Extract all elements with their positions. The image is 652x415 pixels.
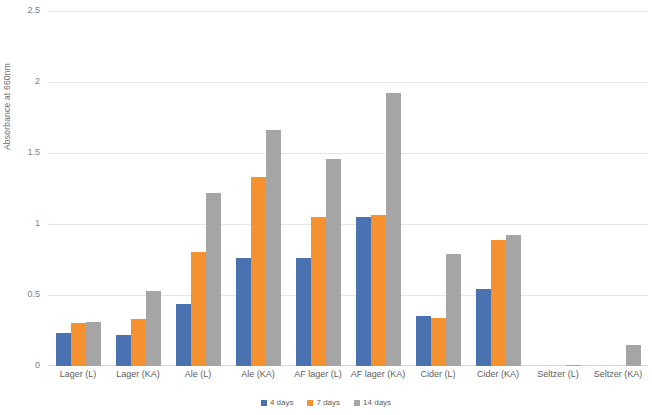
bar-group	[468, 11, 528, 366]
x-axis-label: Lager (KA)	[108, 369, 168, 379]
bar-0[interactable]	[116, 335, 131, 366]
y-tick-label: 1	[35, 218, 40, 228]
legend-swatch-icon	[307, 400, 313, 406]
bar-2[interactable]	[146, 291, 161, 366]
legend-item[interactable]: 14 days	[354, 398, 391, 407]
bar-group	[528, 11, 588, 366]
legend-label: 4 days	[270, 398, 294, 407]
chart-legend: 4 days7 days14 days	[0, 398, 652, 407]
y-tick-label: 0	[35, 360, 40, 370]
bar-group	[288, 11, 348, 366]
bar-group	[48, 11, 108, 366]
y-tick-label: 1.5	[27, 147, 40, 157]
bar-0[interactable]	[416, 316, 431, 366]
legend-label: 14 days	[363, 398, 391, 407]
bar-2[interactable]	[206, 193, 221, 366]
bar-groups	[48, 11, 648, 366]
bar-group	[168, 11, 228, 366]
legend-swatch-icon	[354, 400, 360, 406]
x-axis-labels: Lager (L)Lager (KA)Ale (L)Ale (KA)AF lag…	[48, 369, 648, 379]
bar-2[interactable]	[326, 159, 341, 366]
bar-1[interactable]	[371, 215, 386, 366]
bar-1[interactable]	[191, 252, 206, 366]
bar-chart: Absorbance at 660nm 2.521.510.50 Lager (…	[0, 0, 652, 415]
bar-2[interactable]	[386, 93, 401, 366]
x-axis-label: Seltzer (KA)	[588, 369, 648, 379]
bar-1[interactable]	[431, 318, 446, 366]
bar-2[interactable]	[446, 254, 461, 366]
x-axis-label: Ale (KA)	[228, 369, 288, 379]
bar-0[interactable]	[176, 304, 191, 366]
y-tick-label: 2.5	[27, 5, 40, 15]
bar-0[interactable]	[56, 333, 71, 366]
bar-0[interactable]	[476, 289, 491, 366]
legend-swatch-icon	[261, 400, 267, 406]
bar-0[interactable]	[296, 258, 311, 366]
legend-item[interactable]: 7 days	[307, 398, 340, 407]
bar-1[interactable]	[71, 323, 86, 366]
y-tick-label: 2	[35, 76, 40, 86]
bar-2[interactable]	[266, 130, 281, 366]
bar-2[interactable]	[626, 345, 641, 366]
bar-1[interactable]	[311, 217, 326, 366]
bar-group	[408, 11, 468, 366]
bar-group	[108, 11, 168, 366]
bar-2[interactable]	[566, 365, 581, 366]
x-axis-label: Ale (L)	[168, 369, 228, 379]
bar-group	[348, 11, 408, 366]
x-axis-label: Cider (KA)	[468, 369, 528, 379]
x-axis-label: AF lager (KA)	[348, 369, 408, 379]
x-axis-label: Cider (L)	[408, 369, 468, 379]
x-axis-label: AF lager (L)	[288, 369, 348, 379]
x-axis-label: Lager (L)	[48, 369, 108, 379]
bar-2[interactable]	[506, 235, 521, 366]
bar-group	[588, 11, 648, 366]
legend-label: 7 days	[316, 398, 340, 407]
bar-1[interactable]	[131, 319, 146, 366]
bar-group	[228, 11, 288, 366]
bar-1[interactable]	[251, 177, 266, 366]
x-axis-label: Seltzer (L)	[528, 369, 588, 379]
bar-2[interactable]	[86, 322, 101, 366]
legend-item[interactable]: 4 days	[261, 398, 294, 407]
y-tick-label: 0.5	[27, 289, 40, 299]
bar-1[interactable]	[491, 240, 506, 366]
bar-0[interactable]	[236, 258, 251, 366]
y-axis-ticks: 2.521.510.50	[0, 11, 44, 366]
bar-0[interactable]	[356, 217, 371, 366]
